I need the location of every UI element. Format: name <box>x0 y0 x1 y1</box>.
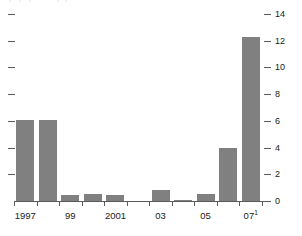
y-tick-left-2 <box>8 174 15 175</box>
x-tick-3 <box>82 201 83 206</box>
bar-2001 <box>106 195 124 201</box>
y-tick-label-0: 0 <box>275 197 280 206</box>
x-tick-label-2003: 03 <box>155 210 166 221</box>
x-tick-7 <box>172 201 173 206</box>
bar-2007 <box>242 37 260 201</box>
x-tick-label-2007: 071 <box>244 210 258 221</box>
y-tick-right-0 <box>264 201 271 202</box>
y-tick-right-8 <box>264 94 271 95</box>
y-tick-right-12 <box>264 41 271 42</box>
y-tick-label-12: 12 <box>275 37 285 46</box>
plot-area <box>14 14 262 201</box>
x-tick-label-2005: 05 <box>200 210 211 221</box>
x-tick-label-2001: 2001 <box>105 210 126 221</box>
bar-chart: 02468101214 19979920010305071 <box>0 0 302 236</box>
x-tick-6 <box>149 201 150 206</box>
x-tick-5 <box>127 201 128 206</box>
bar-2005 <box>197 194 215 201</box>
y-tick-right-6 <box>264 121 271 122</box>
x-tick-8 <box>194 201 195 206</box>
bar-2006 <box>219 148 237 201</box>
bar-2000 <box>84 194 102 201</box>
y-tick-right-2 <box>264 174 271 175</box>
bar-1997 <box>16 120 34 201</box>
x-tick-0 <box>14 201 15 206</box>
y-tick-left-6 <box>8 121 15 122</box>
y-tick-label-14: 14 <box>275 10 285 19</box>
x-tick-label-1999: 99 <box>65 210 76 221</box>
bar-1999 <box>61 195 79 201</box>
bar-1998 <box>39 120 57 201</box>
x-tick-label-1997: 1997 <box>15 210 36 221</box>
y-tick-right-14 <box>264 14 271 15</box>
x-tick-9 <box>217 201 218 206</box>
x-tick-1 <box>37 201 38 206</box>
y-tick-left-4 <box>8 148 15 149</box>
y-tick-label-8: 8 <box>275 90 280 99</box>
y-tick-label-4: 4 <box>275 144 280 153</box>
x-tick-2 <box>59 201 60 206</box>
x-tick-4 <box>104 201 105 206</box>
bar-2003 <box>152 190 170 201</box>
y-tick-label-2: 2 <box>275 170 280 179</box>
bar-2004 <box>174 200 192 201</box>
x-tick-11 <box>262 201 263 206</box>
y-tick-left-10 <box>8 67 15 68</box>
y-tick-left-12 <box>8 41 15 42</box>
cropped-title-residue <box>6 0 156 4</box>
y-tick-label-6: 6 <box>275 117 280 126</box>
x-tick-10 <box>239 201 240 206</box>
axis-baseline <box>14 201 264 202</box>
y-tick-left-14 <box>8 14 15 15</box>
footnote-marker: 1 <box>254 209 258 216</box>
y-tick-right-10 <box>264 67 271 68</box>
y-tick-label-10: 10 <box>275 63 285 72</box>
y-tick-right-4 <box>264 148 271 149</box>
y-tick-left-8 <box>8 94 15 95</box>
